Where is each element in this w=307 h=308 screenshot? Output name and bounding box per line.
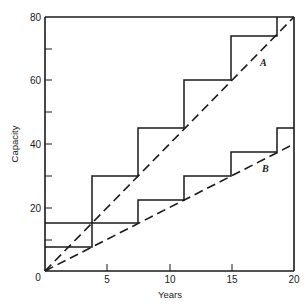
- y-axis-title: Capacity: [9, 125, 20, 162]
- x-tick-label-15: 15: [226, 274, 238, 285]
- chart-canvas: 80 60 40 20 0 5 10 15 20 Years Capacity …: [0, 0, 307, 308]
- series-b-demand-line: [45, 144, 294, 271]
- x-tick-label-0: 0: [35, 272, 41, 283]
- x-axis-title: Years: [158, 289, 182, 300]
- y-tick-label-60: 60: [30, 75, 42, 86]
- series-a-capacity-steps: [45, 17, 277, 223]
- x-tick-label-10: 10: [164, 274, 176, 285]
- series-b-label: B: [261, 163, 269, 174]
- y-tick-label-20: 20: [30, 203, 42, 214]
- y-ticks: [45, 49, 52, 240]
- x-tick-label-20: 20: [288, 274, 300, 285]
- series-a-label: A: [259, 57, 267, 68]
- series-b-capacity-steps: [45, 128, 294, 247]
- y-tick-label-40: 40: [30, 139, 42, 150]
- x-ticks: [107, 264, 232, 271]
- y-tick-label-80: 80: [30, 12, 42, 23]
- series-a-demand-line: [45, 17, 294, 271]
- x-tick-label-5: 5: [104, 274, 110, 285]
